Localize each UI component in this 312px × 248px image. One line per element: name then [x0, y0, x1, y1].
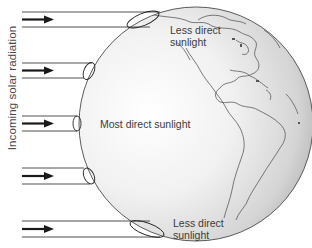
arrow-right-icon: [22, 225, 54, 233]
bottom-label-line2: sunlight: [173, 229, 224, 241]
arrows: [22, 16, 54, 234]
middle-label: Most direct sunlight: [100, 118, 190, 130]
arrow-right-icon: [22, 172, 54, 180]
arrow-right-icon: [22, 120, 54, 128]
top-label: Less direct sunlight: [170, 24, 221, 48]
solar-radiation-diagram: Incoming solar radiation Less direct sun…: [0, 0, 312, 248]
arrow-right-icon: [22, 16, 54, 24]
bottom-label: Less direct sunlight: [173, 217, 224, 241]
bottom-label-line1: Less direct: [173, 217, 224, 229]
top-label-line2: sunlight: [170, 36, 221, 48]
top-label-line1: Less direct: [170, 24, 221, 36]
arrow-right-icon: [22, 67, 54, 75]
incoming-solar-radiation-label: Incoming solar radiation: [2, 0, 22, 212]
